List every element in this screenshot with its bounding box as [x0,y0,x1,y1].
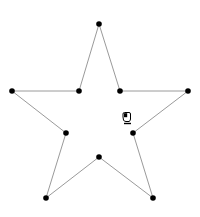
star-vertices [9,21,191,201]
vertex-handle-v-inner-bottom[interactable] [96,154,102,160]
vertex-handle-v-left[interactable] [9,88,15,94]
star-edges [12,24,188,198]
vertex-handle-v-inner-upper-right[interactable] [117,88,123,94]
vertex-handle-v-inner-upper-left[interactable] [76,88,82,94]
vertex-handle-v-inner-left[interactable] [63,130,69,136]
edge-v-top-to-v-inner-upper-right [99,24,120,91]
star-polygon-canvas[interactable] [0,0,200,217]
edge-v-inner-bottom-to-v-bottom-left [46,157,99,198]
vertex-handle-v-inner-right[interactable] [130,130,136,136]
edge-v-inner-right-to-v-bottom-right [133,133,153,198]
vertex-handle-v-right[interactable] [185,88,191,94]
vertex-handle-v-bottom-right[interactable] [150,195,156,201]
edge-v-inner-upper-left-to-v-top [79,24,99,91]
edge-v-bottom-left-to-v-inner-left [46,133,66,198]
edge-v-right-to-v-inner-right [133,91,188,133]
edge-v-inner-left-to-v-left [12,91,66,133]
edge-v-bottom-right-to-v-inner-bottom [99,157,153,198]
vertex-handle-v-top[interactable] [96,21,102,27]
vertex-handle-v-bottom-left[interactable] [43,195,49,201]
